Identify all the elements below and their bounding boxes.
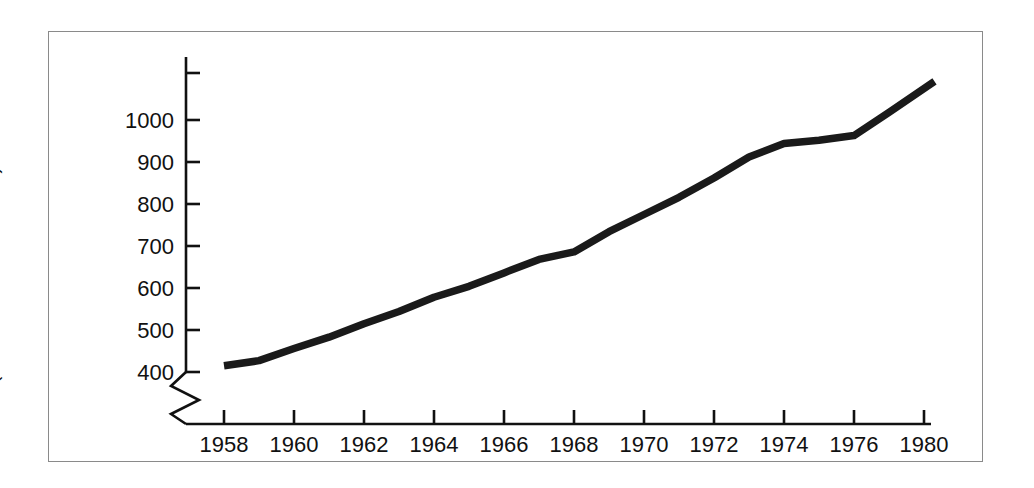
data-series-line [224,81,935,365]
x-tick-label-1968: 1968 [550,432,599,457]
y-tick-label-700: 700 [137,234,174,259]
x-axis-ticks [224,410,924,424]
x-tick-label-1958: 1958 [200,432,249,457]
x-axis-tick-labels: 1958196019621964196619681970197219741976… [200,432,949,457]
chart-svg: 4005006007008009001000 19581960196219641… [0,0,1034,488]
plot-area: Real GNP in France (billions of 1970 fra… [0,0,1034,488]
x-tick-label-1970: 1970 [620,432,669,457]
chart-root: Real GNP in France (billions of 1970 fra… [0,0,1034,488]
x-tick-label-1962: 1962 [340,432,389,457]
x-tick-label-1980: 1980 [900,432,949,457]
x-tick-label-1976: 1976 [830,432,879,457]
y-axis-break-zigzag [171,372,199,424]
x-tick-label-1972: 1972 [690,432,739,457]
x-tick-label-1966: 1966 [480,432,529,457]
x-tick-label-1964: 1964 [410,432,459,457]
y-axis-ticks [186,73,200,372]
x-tick-label-1974: 1974 [760,432,809,457]
y-tick-label-400: 400 [137,360,174,385]
y-axis-tick-labels: 4005006007008009001000 [125,108,174,385]
y-tick-label-900: 900 [137,150,174,175]
y-tick-label-500: 500 [137,318,174,343]
x-tick-label-1960: 1960 [270,432,319,457]
y-tick-label-1000: 1000 [125,108,174,133]
y-tick-label-600: 600 [137,276,174,301]
y-tick-label-800: 800 [137,192,174,217]
